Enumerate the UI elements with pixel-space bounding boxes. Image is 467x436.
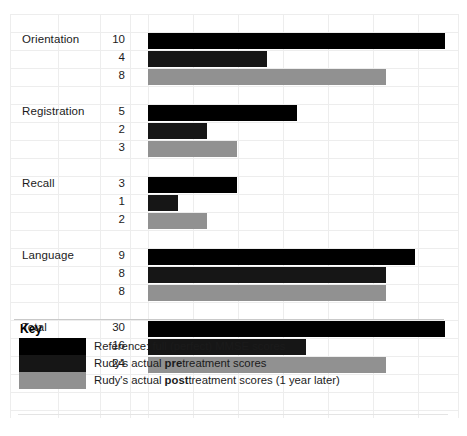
chart-row: 8 (0, 68, 467, 86)
value-label: 2 (95, 123, 125, 135)
legend-top-rule (14, 319, 444, 320)
value-label: 3 (95, 177, 125, 189)
chart-row: Orientation10 (0, 32, 467, 50)
footer-rule (18, 414, 448, 415)
legend-entry: Rudy's actual pretreatment scores (14, 355, 444, 372)
chart-legend: Key Reference: full (perfect) MMSE score… (14, 322, 444, 390)
chart-row: 1 (0, 194, 467, 212)
legend-swatch-reference (19, 338, 86, 355)
chart-row: 2 (0, 122, 467, 140)
legend-entry: Reference: full (perfect) MMSE scores (14, 338, 444, 355)
category-label: Orientation (22, 33, 79, 45)
value-label: 4 (95, 51, 125, 63)
bar-reference (148, 33, 445, 49)
value-label: 1 (95, 195, 125, 207)
value-label: 5 (95, 105, 125, 117)
chart-row: 2 (0, 212, 467, 230)
legend-entry: Rudy's actual posttreatment scores (1 ye… (14, 372, 444, 389)
bar-reference (148, 249, 415, 265)
legend-swatch-post (19, 372, 86, 389)
value-label: 8 (95, 285, 125, 297)
spreadsheet-canvas: Orientation1048Registration523Recall312L… (0, 0, 467, 436)
legend-title: Key (20, 322, 42, 336)
chart-row: Registration5 (0, 104, 467, 122)
bar-pre (148, 51, 267, 67)
chart-row: 4 (0, 50, 467, 68)
category-label: Recall (22, 177, 55, 189)
category-label: Language (22, 249, 74, 261)
bar-post (148, 213, 207, 229)
value-label: 8 (95, 267, 125, 279)
chart-row: 3 (0, 140, 467, 158)
bar-reference (148, 177, 237, 193)
chart-row: Recall3 (0, 176, 467, 194)
category-label: Registration (22, 105, 85, 117)
value-label: 9 (95, 249, 125, 261)
value-label: 3 (95, 141, 125, 153)
chart-row: Language9 (0, 248, 467, 266)
value-label: 10 (95, 33, 125, 45)
legend-swatch-pre (19, 355, 86, 372)
value-label: 8 (95, 69, 125, 81)
legend-label: Rudy's actual posttreatment scores (1 ye… (94, 374, 340, 386)
bar-post (148, 69, 386, 85)
legend-label: Reference: full (perfect) MMSE scores (94, 340, 285, 352)
legend-label: Rudy's actual pretreatment scores (94, 357, 266, 369)
chart-row: 8 (0, 284, 467, 302)
value-label: 2 (95, 213, 125, 225)
bar-post (148, 141, 237, 157)
bar-pre (148, 123, 207, 139)
bar-reference (148, 105, 297, 121)
bar-pre (148, 195, 178, 211)
chart-row: 8 (0, 266, 467, 284)
bar-pre (148, 267, 386, 283)
bar-post (148, 285, 386, 301)
